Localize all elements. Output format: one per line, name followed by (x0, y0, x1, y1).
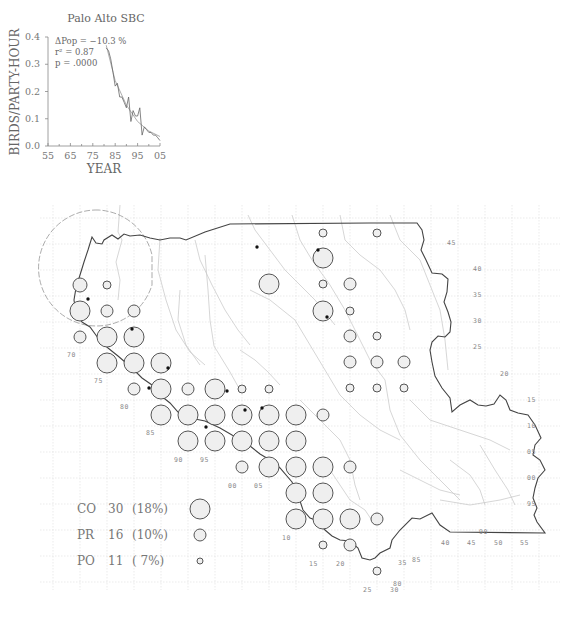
distribution-map: 7075808590950005101520253045403530252015… (0, 0, 576, 617)
svg-text:45: 45 (447, 239, 456, 247)
abundance-circle (259, 431, 279, 451)
occurrence-dot (260, 406, 263, 409)
svg-text:80: 80 (393, 580, 402, 588)
svg-text:35: 35 (398, 559, 407, 567)
abundance-circle (373, 384, 381, 392)
svg-text:( 7%): ( 7%) (132, 554, 164, 568)
abundance-circle (286, 483, 306, 503)
occurrence-dot (204, 425, 207, 428)
abundance-circle (398, 356, 410, 368)
svg-text:30: 30 (473, 317, 482, 325)
abundance-circle (73, 278, 87, 292)
svg-text:(10%): (10%) (132, 528, 168, 542)
svg-text:25: 25 (473, 343, 482, 351)
abundance-circle (205, 431, 225, 451)
occurrence-dots (86, 245, 328, 428)
svg-text:90: 90 (479, 528, 488, 536)
svg-text:75: 75 (94, 377, 103, 385)
svg-text:20: 20 (336, 560, 345, 568)
abundance-circle (205, 405, 225, 425)
svg-text:05: 05 (527, 448, 536, 456)
occurrence-dot (130, 327, 133, 330)
abundance-circle (97, 327, 117, 347)
legend: CO 30 (18%) PR 16 (10%) PO 11 ( 7%) (77, 499, 210, 568)
abundance-circles (70, 229, 410, 575)
abundance-circle (70, 301, 90, 321)
abundance-circle (74, 331, 86, 343)
occurrence-dot (325, 315, 328, 318)
svg-text:25: 25 (363, 586, 372, 594)
abundance-circle (344, 461, 356, 473)
abundance-circle (178, 431, 198, 451)
svg-text:15: 15 (527, 396, 536, 404)
abundance-circle (286, 457, 306, 477)
svg-text:15: 15 (309, 560, 318, 568)
svg-text:40: 40 (473, 265, 482, 273)
svg-text:85: 85 (146, 429, 155, 437)
svg-text:70: 70 (67, 351, 76, 359)
occurrence-dot (86, 297, 89, 300)
svg-text:00: 00 (527, 474, 536, 482)
occurrence-dot (225, 389, 228, 392)
svg-text:80: 80 (120, 403, 129, 411)
legend-circle-large-icon (190, 499, 210, 519)
occurrence-dot (316, 248, 319, 251)
abundance-circle (319, 280, 327, 288)
abundance-circle (103, 281, 111, 289)
abundance-circle (346, 384, 354, 392)
abundance-circle (259, 457, 279, 477)
abundance-circle (346, 307, 354, 315)
abundance-circle (313, 248, 333, 268)
svg-text:10: 10 (282, 534, 291, 542)
svg-text:05: 05 (254, 482, 263, 490)
abundance-circle (371, 513, 383, 525)
svg-text:CO: CO (77, 502, 96, 516)
abundance-circle (344, 356, 356, 368)
abundance-circle (344, 330, 356, 342)
svg-text:40: 40 (441, 539, 450, 547)
abundance-circle (151, 379, 171, 399)
legend-circle-medium-icon (194, 529, 206, 541)
svg-text:20: 20 (500, 370, 509, 378)
legend-item-co: CO 30 (18%) (77, 499, 210, 519)
legend-item-pr: PR 16 (10%) (77, 528, 206, 542)
svg-text:11: 11 (108, 554, 123, 568)
abundance-circle (236, 461, 248, 473)
svg-text:PR: PR (77, 528, 95, 542)
svg-text:50: 50 (494, 539, 503, 547)
abundance-circle (286, 405, 306, 425)
abundance-circle (319, 541, 327, 549)
abundance-circle (232, 405, 252, 425)
abundance-circle (344, 539, 356, 551)
abundance-circle (151, 405, 171, 425)
abundance-circle (313, 457, 333, 477)
abundance-circle (124, 327, 144, 347)
abundance-circle (286, 509, 306, 529)
abundance-circle (344, 278, 356, 290)
svg-text:35: 35 (473, 291, 482, 299)
abundance-circle (313, 509, 333, 529)
svg-text:PO: PO (77, 554, 95, 568)
svg-text:(18%): (18%) (132, 502, 168, 516)
abundance-circle (313, 483, 333, 503)
abundance-circle (205, 379, 225, 399)
svg-text:95: 95 (527, 500, 536, 508)
occurrence-dot (166, 366, 169, 369)
abundance-circle (182, 383, 194, 395)
svg-text:16: 16 (108, 528, 123, 542)
abundance-circle (238, 385, 246, 393)
abundance-circle (373, 332, 381, 340)
abundance-circle (286, 431, 306, 451)
abundance-circle (400, 384, 408, 392)
abundance-circle (373, 229, 381, 237)
abundance-circle (340, 509, 360, 529)
svg-text:10: 10 (527, 422, 536, 430)
svg-text:45: 45 (467, 539, 476, 547)
abundance-circle (313, 301, 333, 321)
occurrence-dot (147, 386, 150, 389)
abundance-circle (124, 353, 144, 373)
occurrence-dot (255, 245, 258, 248)
svg-text:95: 95 (200, 456, 209, 464)
abundance-circle (128, 305, 140, 317)
abundance-circle (317, 409, 329, 421)
